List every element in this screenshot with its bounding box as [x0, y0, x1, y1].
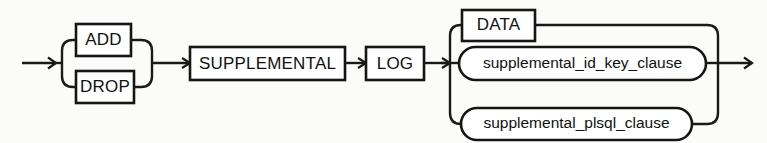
log-node: LOG — [366, 47, 424, 80]
id-key-clause-node: supplemental_id_key_clause — [459, 47, 706, 80]
supplemental-node: SUPPLEMENTAL — [190, 47, 345, 80]
plsql-clause-label: supplemental_plsql_clause — [483, 114, 669, 131]
log-label: LOG — [377, 54, 414, 73]
data-node: DATA — [462, 10, 535, 41]
drop-label: DROP — [80, 77, 130, 96]
add-node: ADD — [76, 24, 131, 56]
entry-arrow — [22, 58, 56, 69]
drop-node: DROP — [76, 71, 134, 103]
syntax-diagram-page: ADD DROP SUPPLEMENTAL — [0, 0, 767, 143]
data-label: DATA — [477, 15, 521, 34]
exit-arrow — [718, 58, 752, 69]
railroad-diagram: ADD DROP SUPPLEMENTAL — [0, 0, 767, 143]
supplemental-label: SUPPLEMENTAL — [199, 54, 336, 73]
log-target-group: DATA supplemental_id_key_clause suppleme… — [441, 10, 718, 140]
add-drop-group: ADD DROP — [56, 24, 152, 103]
id-key-clause-label: supplemental_id_key_clause — [483, 54, 682, 71]
plsql-clause-node: supplemental_plsql_clause — [461, 108, 692, 140]
rail-group-to-supplemental — [152, 58, 190, 68]
rail-supplemental-to-log — [345, 58, 366, 68]
add-label: ADD — [85, 30, 122, 49]
